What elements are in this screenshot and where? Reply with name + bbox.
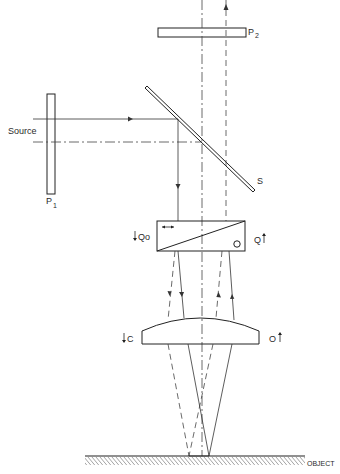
prism-left-label: Qo — [138, 232, 150, 242]
splitter-label: S — [257, 176, 263, 186]
middle-rays — [168, 251, 235, 320]
upper-rays — [176, 0, 229, 456]
arrow-down-icon — [176, 184, 181, 189]
object-label: OBJECT — [307, 460, 335, 467]
source-rays — [33, 117, 202, 143]
clipped-caption — [0, 468, 140, 474]
lower-rays — [168, 344, 232, 456]
arrow-up-icon — [224, 4, 229, 10]
dic-optical-diagram: P 2 P 1 Source S — [0, 0, 340, 474]
polarizer-p1: P 1 — [46, 94, 57, 209]
analyzer-label: P — [248, 27, 254, 37]
source-label: Source — [8, 126, 37, 136]
beam-splitter-s: S — [145, 86, 263, 192]
object-surface: OBJECT — [85, 456, 335, 467]
analyzer-p2: P 2 — [158, 27, 259, 39]
arrow-right-icon — [128, 117, 133, 122]
polarizer-subscript: 1 — [53, 202, 57, 209]
polarizer-label: P — [46, 196, 52, 206]
wollaston-prism: Qo Q — [133, 221, 266, 251]
lens-right-label: O — [269, 334, 276, 344]
lens-left-label: C — [127, 334, 134, 344]
prism-right-label: Q — [254, 235, 261, 245]
analyzer-subscript: 2 — [255, 32, 259, 39]
